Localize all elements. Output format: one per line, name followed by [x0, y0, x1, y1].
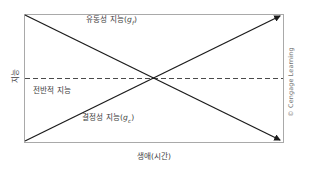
general-intelligence-label: 전반적 지능	[33, 87, 71, 95]
fluid-label-text: 유동성 지능(	[86, 15, 127, 24]
y-axis-label: 지능	[9, 56, 20, 96]
copyright-credit: © Cengage Learning	[287, 27, 295, 137]
crystallized-label-close: )	[131, 113, 134, 122]
crystallized-intelligence-label: 결정성 지능(gc)	[82, 114, 134, 124]
plot-frame	[24, 14, 284, 143]
fluid-label-close: )	[134, 15, 137, 24]
fluid-intelligence-label: 유동성 지능(gf)	[86, 16, 137, 26]
intelligence-lifespan-diagram: 유동성 지능(gf) 전반적 지능 결정성 지능(gc) 지능 생애(시간) ©…	[0, 0, 314, 179]
crystallized-label-text: 결정성 지능(	[82, 113, 123, 122]
x-axis-label: 생애(시간)	[24, 150, 284, 161]
